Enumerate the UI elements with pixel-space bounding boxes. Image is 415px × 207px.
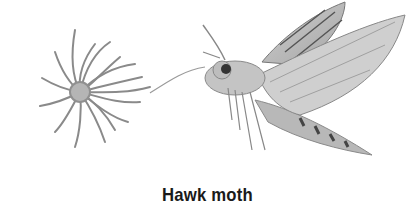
proboscis-drawing [150,67,205,93]
hawk-moth-illustration [0,0,415,170]
figure-caption: Hawk moth [25,184,390,206]
flower-drawing [40,30,150,147]
moth-drawing [203,2,405,155]
